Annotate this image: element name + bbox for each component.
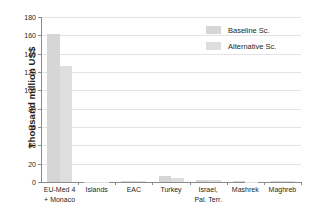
- y-tick-mark: [38, 145, 41, 146]
- x-tick-label: EU-Med 4+ Monaco: [41, 185, 78, 204]
- x-axis-line: [41, 182, 301, 183]
- x-tick-mark: [301, 182, 302, 185]
- bar-baseline: [47, 34, 60, 183]
- bar-baseline: [121, 181, 134, 182]
- y-tick-label: 80: [28, 105, 36, 112]
- y-tick-mark: [38, 54, 41, 55]
- x-tick-label-line1: EU-Med 4: [44, 186, 76, 193]
- x-tick-label: Turkey: [152, 185, 189, 195]
- x-tick-label: Islands: [78, 185, 115, 195]
- gridline: [42, 127, 301, 128]
- gridline: [42, 145, 301, 146]
- x-tick-label-line1: Maghreb: [269, 186, 297, 193]
- gridline: [42, 90, 301, 91]
- x-tick-label: Israel,Pal. Terr.: [190, 185, 227, 204]
- y-tick-label: 160: [24, 32, 36, 39]
- x-axis-labels: EU-Med 4+ MonacoIslandsEACTurkeyIsrael,P…: [41, 185, 301, 217]
- y-tick-label: 0: [32, 179, 36, 186]
- y-tick-label: 120: [24, 69, 36, 76]
- chart-figure: Thousand million US$ 0204060801001201401…: [0, 0, 312, 219]
- y-tick-label: 140: [24, 50, 36, 57]
- gridline: [42, 17, 301, 18]
- bar-alternative: [60, 66, 73, 182]
- y-tick-mark: [38, 164, 41, 165]
- bar-alternative: [282, 181, 295, 182]
- y-tick-mark: [38, 182, 41, 183]
- x-tick-label-line1: Turkey: [160, 186, 181, 193]
- chart-legend: Baseline Sc. Alternative Sc.: [206, 22, 276, 54]
- y-tick-label: 60: [28, 124, 36, 131]
- x-tick-label: Maghreb: [264, 185, 301, 195]
- x-tick-label-line1: Islands: [86, 186, 108, 193]
- gridline: [42, 109, 301, 110]
- gridline: [42, 164, 301, 165]
- x-tick-label-line1: EAC: [127, 186, 141, 193]
- bar-baseline: [270, 181, 283, 182]
- x-tick-label-line1: Israel,: [199, 186, 218, 193]
- y-tick-mark: [38, 35, 41, 36]
- legend-label-alternative: Alternative Sc.: [228, 42, 276, 51]
- y-tick-mark: [38, 90, 41, 91]
- y-axis-line: [41, 17, 42, 183]
- legend-swatch-baseline: [206, 26, 221, 34]
- x-tick-label-line2: + Monaco: [41, 195, 78, 205]
- y-tick-mark: [38, 127, 41, 128]
- x-tick-label-line1: Mashrek: [232, 186, 259, 193]
- legend-item-alternative: Alternative Sc.: [206, 38, 276, 54]
- y-tick-label: 40: [28, 142, 36, 149]
- y-tick-label: 180: [24, 14, 36, 21]
- y-tick-mark: [38, 109, 41, 110]
- x-tick-label-line2: Pal. Terr.: [190, 195, 227, 205]
- x-tick-label: EAC: [115, 185, 152, 195]
- legend-swatch-alternative: [206, 42, 221, 50]
- bar-baseline: [233, 181, 246, 182]
- bar-alternative: [171, 178, 184, 182]
- legend-label-baseline: Baseline Sc.: [228, 26, 270, 35]
- legend-item-baseline: Baseline Sc.: [206, 22, 276, 38]
- y-tick-label: 20: [28, 160, 36, 167]
- y-axis-title: Thousand million US$: [26, 18, 37, 178]
- y-tick-mark: [38, 72, 41, 73]
- gridline: [42, 72, 301, 73]
- bar-alternative: [134, 181, 147, 182]
- bar-baseline: [159, 176, 172, 182]
- x-tick-label: Mashrek: [227, 185, 264, 195]
- y-tick-mark: [38, 17, 41, 18]
- bar-alternative: [208, 180, 221, 182]
- bar-baseline: [196, 180, 209, 182]
- y-tick-label: 100: [24, 87, 36, 94]
